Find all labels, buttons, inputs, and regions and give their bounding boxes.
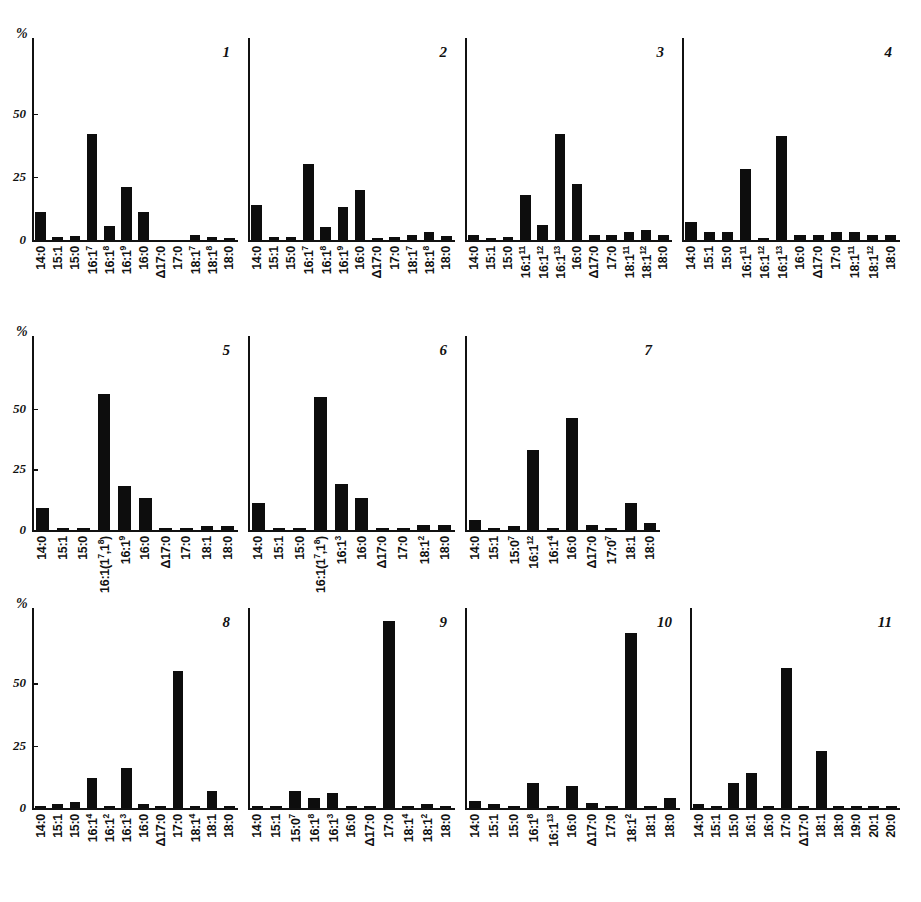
bar-slot [156, 336, 177, 530]
x-tick-label: Δ17:0 [811, 246, 825, 279]
bar [355, 190, 366, 241]
x-tick-label-slot: 17:0 [602, 812, 622, 882]
x-tick-label-slot: 17:0 [393, 534, 414, 604]
x-tick-label: 16:0 [570, 246, 584, 270]
x-tick-label: Δ17:0 [375, 536, 389, 569]
x-axis-labels: 14:015:115:016:11116:11216:11316:0Δ17:01… [465, 244, 672, 314]
bar [70, 802, 81, 808]
bar [417, 525, 430, 530]
bar [868, 806, 879, 808]
y-axis-label: % [16, 324, 28, 340]
x-tick-label-slot: 16:13 [323, 812, 342, 882]
x-tick-label: 18:0 [656, 246, 670, 270]
bar-slot [813, 608, 831, 808]
x-tick-label: 16:0 [565, 814, 579, 838]
chart-panel-10: 1014:015:115:016:1816:11316:0Δ17:017:018… [465, 608, 680, 882]
x-axis-labels: 14:015:115:016:1716:1816:1916:0Δ17:017:0… [248, 244, 455, 314]
x-tick-label-slot: 14:0 [32, 534, 53, 604]
x-tick-label: 18:14 [187, 814, 203, 842]
bar [98, 394, 111, 530]
x-tick-label: 16:17 [300, 246, 316, 274]
x-tick-label: 15:07 [506, 536, 522, 564]
figure-root: 1%5025014:015:115:016:1716:1816:1916:0Δ1… [0, 0, 921, 902]
x-axis-labels: 14:015:115:0716:11216:1416:0Δ17:017:0718… [465, 534, 660, 604]
x-tick-label: 17:0 [179, 536, 193, 560]
y-axis-label: % [16, 26, 28, 42]
x-tick-label-slot: 15:0 [725, 812, 743, 882]
bar-slot [186, 38, 203, 240]
x-tick-label: 18:17 [187, 246, 203, 274]
x-tick-label: 17:0 [171, 246, 185, 270]
bar-slot [66, 38, 83, 240]
bar [833, 806, 844, 808]
bar-slot [152, 38, 169, 240]
bar [606, 235, 617, 240]
x-tick-label-slot: 14:0 [465, 244, 482, 314]
bar-slot [32, 336, 53, 530]
bar [251, 205, 262, 240]
chart-panel-11: 1114:015:115:016:116:017:0Δ17:018:118:01… [690, 608, 900, 882]
x-tick-label: 18:0 [884, 246, 898, 270]
x-tick-label: 18:0 [221, 536, 235, 560]
bar-slot [543, 336, 563, 530]
x-tick-label-slot: 18:112 [638, 244, 655, 314]
bar [289, 791, 301, 809]
x-tick-label: 17:0 [382, 814, 396, 838]
x-tick-label: 16:19 [117, 536, 133, 564]
bar [693, 804, 704, 808]
x-tick-label-slot: 15:1 [267, 812, 286, 882]
bar-slot [582, 336, 602, 530]
x-tick-label: 16:0 [353, 246, 367, 270]
bar-slot [267, 608, 286, 808]
x-tick-label: 16:1(17,18) [312, 536, 328, 593]
x-tick-label: 14:0 [467, 246, 481, 270]
x-tick-label-slot: 18:0 [221, 244, 238, 314]
bar [121, 768, 132, 808]
x-tick-label-slot: 18:1 [813, 812, 831, 882]
chart-panel-8: 8%5025014:015:115:016:1416:1216:1316:0Δ1… [32, 608, 238, 882]
x-tick-label: 16:113 [552, 246, 568, 279]
x-tick-label: 18:112 [865, 246, 881, 279]
bar-slot [482, 38, 499, 240]
x-tick-label: Δ17:0 [585, 814, 599, 847]
x-tick-label: 16:113 [545, 814, 561, 847]
x-tick-label: 14:0 [250, 814, 264, 838]
bar [589, 235, 600, 240]
bar-slot [414, 336, 435, 530]
bar-slot [465, 38, 482, 240]
chart-panel-5: 5%5025014:015:115:016:1(17,18)16:1916:0Δ… [32, 336, 238, 604]
bar [402, 806, 414, 809]
bar [746, 773, 757, 808]
bar [547, 806, 559, 808]
bar-slot [114, 336, 135, 530]
bar-slot [543, 608, 563, 808]
bar-slot [864, 38, 882, 240]
bar [207, 237, 218, 240]
bar-slot [621, 608, 641, 808]
bar-slot [380, 608, 399, 808]
x-tick-label: 18:14 [400, 814, 416, 842]
bar [104, 226, 115, 240]
bar-slot [135, 336, 156, 530]
bar [407, 235, 418, 240]
bar [813, 235, 824, 240]
bar-slot [152, 608, 169, 808]
bar [389, 237, 400, 240]
bar [424, 232, 435, 240]
x-axis-baseline [465, 530, 660, 532]
x-tick-label: Δ17:0 [159, 536, 173, 569]
bar [728, 783, 739, 808]
bar [816, 751, 827, 809]
bar-slot [485, 608, 505, 808]
bar [35, 212, 46, 240]
bar-slot [690, 608, 708, 808]
x-tick-label: 16:0 [344, 814, 358, 838]
bar-slot [399, 608, 418, 808]
bar [486, 238, 497, 240]
x-tick-label: 18:0 [439, 246, 453, 270]
bar [605, 806, 617, 809]
x-tick-label-slot: 16:0 [563, 812, 583, 882]
x-tick-label-slot: 19:0 [848, 812, 866, 882]
x-tick-label: Δ17:0 [154, 814, 168, 847]
bar-slot [217, 336, 238, 530]
